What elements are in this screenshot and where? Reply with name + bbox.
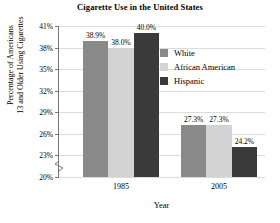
chart-title: Cigarette Use in the United States xyxy=(0,2,280,12)
legend-item[interactable]: White xyxy=(160,46,235,60)
gridline xyxy=(59,26,265,27)
y-axis-tick-label: 38% xyxy=(39,43,53,52)
y-axis-tick-label: 35% xyxy=(39,65,53,74)
x-axis-tick-label: 1985 xyxy=(113,182,129,191)
y-axis-tick xyxy=(55,26,59,27)
y-axis-tick xyxy=(55,69,59,70)
bar-value-label: 40.0% xyxy=(137,23,156,32)
bar[interactable]: 40.0% xyxy=(134,33,159,177)
y-axis-tick xyxy=(55,91,59,92)
bar[interactable]: 27.3% xyxy=(206,125,231,177)
bar-value-label: 27.3% xyxy=(209,115,228,124)
y-axis-tick xyxy=(55,177,59,178)
bar-value-label: 38.0% xyxy=(111,38,130,47)
legend-swatch-icon xyxy=(160,63,168,71)
legend-item-label: African American xyxy=(174,62,235,72)
y-axis-tick xyxy=(55,155,59,156)
y-axis-title: Percentage of Americans 13 and Older Usi… xyxy=(6,0,32,140)
chart-legend: WhiteAfrican AmericanHispanic xyxy=(160,46,235,88)
y-axis-tick-label: 41% xyxy=(39,22,53,31)
y-axis-tick xyxy=(55,48,59,49)
bar[interactable]: 27.3% xyxy=(181,125,206,177)
y-axis-title-line-2: 13 and Older Using Cigarettes xyxy=(16,0,26,140)
y-axis-title-line-1: Percentage of Americans xyxy=(6,0,16,140)
x-axis-tick-label: 2005 xyxy=(211,182,227,191)
y-axis-tick-label: 32% xyxy=(39,86,53,95)
bar-value-label: 27.3% xyxy=(184,115,203,124)
bar-value-label: 38.9% xyxy=(86,31,105,40)
y-axis-tick xyxy=(55,112,59,113)
y-axis-tick-label: 23% xyxy=(39,151,53,160)
y-axis-tick-label: 26% xyxy=(39,129,53,138)
y-axis-tick xyxy=(55,134,59,135)
legend-item[interactable]: African American xyxy=(160,60,235,74)
bar[interactable]: 38.0% xyxy=(108,48,133,177)
bar-value-label: 24.2% xyxy=(235,137,254,146)
y-axis-tick-label: 20% xyxy=(39,173,53,182)
bar[interactable]: 24.2% xyxy=(232,147,257,177)
legend-swatch-icon xyxy=(160,77,168,85)
legend-swatch-icon xyxy=(160,49,168,57)
legend-item-label: White xyxy=(174,48,195,58)
legend-item-label: Hispanic xyxy=(174,76,204,86)
y-axis-tick-label: 29% xyxy=(39,108,53,117)
axis-break-icon xyxy=(54,161,64,173)
gridline xyxy=(59,177,265,178)
chart-container: Cigarette Use in the United States Perce… xyxy=(0,0,280,223)
bar[interactable]: 38.9% xyxy=(83,41,108,177)
x-axis-title: Year xyxy=(58,200,265,210)
legend-item[interactable]: Hispanic xyxy=(160,74,235,88)
